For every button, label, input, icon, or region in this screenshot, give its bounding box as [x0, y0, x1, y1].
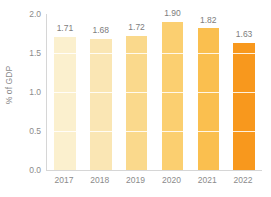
bar[interactable]	[126, 36, 148, 170]
bar-slot: 1.82	[198, 14, 220, 170]
x-axis-line	[46, 170, 262, 171]
bar-series: 1.711.681.721.901.821.63	[47, 14, 262, 170]
x-axis-tick: 2022	[234, 176, 253, 185]
x-axis-tick: 2020	[162, 176, 181, 185]
bar-value-label: 1.90	[164, 9, 181, 18]
y-axis-tick-labels: 0.00.51.01.52.0	[16, 0, 44, 197]
bar[interactable]	[162, 22, 184, 170]
bar-slot: 1.68	[90, 14, 112, 170]
bar-slot: 1.71	[54, 14, 76, 170]
y-axis-tick: 0.5	[29, 127, 41, 136]
bar[interactable]	[198, 28, 220, 170]
bar-slot: 1.72	[126, 14, 148, 170]
bar[interactable]	[90, 39, 112, 170]
x-axis-tick: 2021	[198, 176, 217, 185]
bar-value-label: 1.68	[92, 26, 109, 35]
bar-slot: 1.90	[162, 14, 184, 170]
bar[interactable]	[233, 43, 255, 170]
plot-area: 1.711.681.721.901.821.63	[46, 14, 262, 170]
x-axis-tick: 2017	[54, 176, 73, 185]
bar-chart: % of GDP 0.00.51.01.52.0 1.711.681.721.9…	[0, 0, 271, 197]
bar-value-label: 1.63	[236, 30, 253, 39]
x-axis-tick-labels: 201720182019202020212022	[46, 176, 261, 192]
y-axis-tick: 0.0	[29, 166, 41, 175]
x-axis-tick: 2018	[90, 176, 109, 185]
bar[interactable]	[54, 37, 76, 170]
bar-slot: 1.63	[233, 14, 255, 170]
bar-value-label: 1.71	[57, 24, 74, 33]
y-axis-tick: 2.0	[29, 10, 41, 19]
y-axis-title-label: % of GDP	[4, 66, 14, 105]
y-axis-tick: 1.5	[29, 49, 41, 58]
y-axis-tick: 1.0	[29, 88, 41, 97]
bar-value-label: 1.72	[128, 23, 145, 32]
bar-value-label: 1.82	[200, 16, 217, 25]
x-axis-tick: 2019	[126, 176, 145, 185]
